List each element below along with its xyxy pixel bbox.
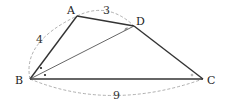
segment-dc xyxy=(134,26,203,79)
vertex-label-a: A xyxy=(66,4,76,17)
angle-mark-c-dot xyxy=(191,74,193,76)
length-label-ab: 4 xyxy=(36,33,43,46)
vertex-label-c: C xyxy=(207,74,215,87)
diagram-canvas: A B C D 4 3 9 xyxy=(0,0,225,107)
segment-ab xyxy=(30,16,77,79)
angle-mark-d-dot xyxy=(125,28,127,30)
angle-mark-b-upper xyxy=(40,67,42,69)
length-label-bc: 9 xyxy=(113,89,120,102)
length-label-ad: 3 xyxy=(103,4,110,17)
geometry-diagram: A B C D 4 3 9 xyxy=(0,0,225,107)
segment-ad xyxy=(77,16,134,26)
angle-mark-b-lower xyxy=(44,74,46,76)
vertex-label-d: D xyxy=(136,15,145,28)
segment-bd xyxy=(30,26,134,79)
vertex-label-b: B xyxy=(15,74,23,87)
